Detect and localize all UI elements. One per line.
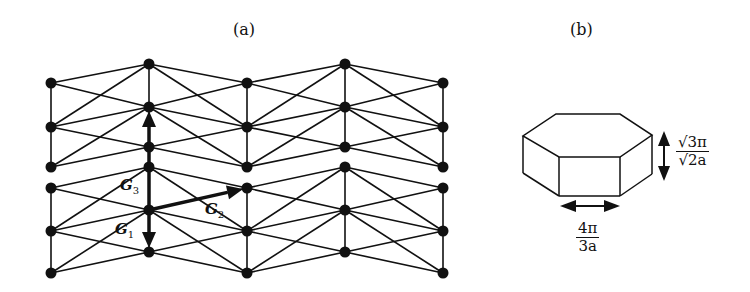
hexagonal-prism [523,114,652,196]
lattice-node [242,122,253,133]
vector-g3-subscript: 3 [133,185,139,196]
height-denominator: √2a [676,152,708,169]
vector-g3-arrowhead-icon [142,111,156,127]
lattice-node [438,162,449,173]
vector-g1-subscript: 1 [128,229,134,240]
lattice-node [144,102,155,113]
lattice-node [438,183,449,194]
vector-g2-arrowhead-icon [226,186,243,200]
lattice-node [46,183,57,194]
vector-g1-label: G1 [115,220,134,240]
lattice-node [438,226,449,237]
height-fraction-label: √3π √2a [676,134,709,170]
vector-g1-symbol: G [115,220,128,238]
figure-canvas [0,0,750,292]
vector-g3-label: G3 [120,176,139,196]
lattice-node [438,78,449,89]
lattice-node [46,122,57,133]
vector-g2-symbol: G [205,200,218,218]
lattice-node [242,78,253,89]
width-fraction-label: 4π 3a [576,220,599,256]
lattice-node [46,268,57,279]
lattice-node [144,59,155,70]
lattice-node [340,205,351,216]
lattice-node [438,122,449,133]
vector-g1-arrowhead-icon [142,232,156,248]
lattice-node [242,183,253,194]
lattice-node [242,268,253,279]
lattice-node [144,247,155,258]
lattice-node [46,226,57,237]
height-dimension-arrow [658,131,670,181]
width-dimension-arrow [560,200,620,212]
lattice-node [438,268,449,279]
lattice-node [242,162,253,173]
vector-g2-label: G2 [205,200,224,220]
lattice-node [46,162,57,173]
lattice-node [340,59,351,70]
width-denominator: 3a [576,238,599,255]
vector-g2-subscript: 2 [218,209,224,220]
lattice-node [242,226,253,237]
panel-b-label: (b) [570,20,593,39]
lattice-node [340,247,351,258]
lattice-node [340,142,351,153]
width-numerator: 4π [576,220,599,238]
height-numerator: √3π [676,134,709,152]
lattice-node [46,78,57,89]
vector-g3-symbol: G [120,176,133,194]
panel-a-label: (a) [233,20,255,39]
lattice-node [340,102,351,113]
lattice-node [340,162,351,173]
